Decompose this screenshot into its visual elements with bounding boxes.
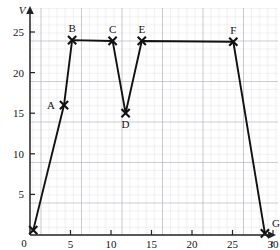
x-tick-label: 5 bbox=[68, 238, 74, 250]
velocity-time-graph: 51015202530510152025 ABCDEFG V t 0 bbox=[0, 0, 280, 250]
chart-container: 51015202530510152025 ABCDEFG V t 0 bbox=[0, 0, 280, 250]
x-tick-label: 20 bbox=[187, 238, 199, 250]
y-tick-label: 15 bbox=[13, 107, 25, 119]
y-tick-label: 5 bbox=[19, 188, 25, 200]
y-tick-label: 10 bbox=[13, 148, 25, 160]
point-label-c: C bbox=[109, 23, 116, 35]
point-label-f: F bbox=[230, 24, 236, 36]
x-tick-label: 10 bbox=[106, 238, 118, 250]
x-tick-label: 25 bbox=[227, 238, 239, 250]
y-tick-label: 20 bbox=[13, 67, 25, 79]
point-label-e: E bbox=[138, 23, 145, 35]
x-tick-label: 15 bbox=[146, 238, 158, 250]
graph-paper-grid bbox=[30, 8, 278, 235]
point-label-d: D bbox=[122, 118, 130, 130]
point-label-g: G bbox=[272, 217, 280, 229]
point-label-a: A bbox=[47, 99, 55, 111]
point-label-b: B bbox=[68, 22, 75, 34]
origin-label: 0 bbox=[21, 237, 27, 249]
y-tick-label: 25 bbox=[13, 26, 25, 38]
